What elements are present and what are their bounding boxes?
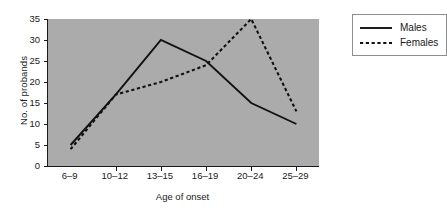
y-tick-mark [44, 61, 48, 62]
legend-item-males[interactable]: Males [359, 20, 438, 35]
y-tick-label: 0 [35, 161, 40, 171]
chart-legend: MalesFemales [352, 14, 447, 56]
x-axis-tick-labels: 6–910–1213–1516–1920–2425–29 [47, 168, 318, 186]
x-tick-label: 20–24 [237, 171, 263, 181]
y-tick-label: 20 [29, 77, 40, 87]
y-tick-mark [44, 145, 48, 146]
series-line-males [71, 40, 297, 145]
plot-area [47, 19, 319, 167]
series-line-females [71, 19, 297, 149]
y-tick-label: 25 [29, 56, 40, 66]
y-tick-mark [44, 103, 48, 104]
y-tick-mark [44, 40, 48, 41]
y-tick-mark [44, 82, 48, 83]
x-tick-label: 6–9 [62, 171, 78, 181]
legend-label: Males [400, 23, 427, 33]
y-tick-label: 5 [35, 140, 40, 150]
y-tick-label: 35 [29, 14, 40, 24]
legend-label: Females [400, 38, 438, 48]
x-tick-label: 10–12 [102, 171, 128, 181]
x-tick-label: 25–29 [282, 171, 308, 181]
y-tick-label: 10 [29, 119, 40, 129]
y-tick-mark [44, 166, 48, 167]
legend-swatch-solid [359, 23, 393, 33]
x-tick-label: 16–19 [192, 171, 218, 181]
series-lines [48, 19, 319, 166]
y-tick-mark [44, 19, 48, 20]
y-axis-tick-labels: 05101520253035 [0, 0, 47, 215]
legend-swatch-dotted [359, 38, 393, 48]
y-tick-mark [44, 124, 48, 125]
x-axis-title: Age of onset [47, 191, 318, 202]
legend-item-females[interactable]: Females [359, 35, 438, 50]
x-tick-label: 13–15 [147, 171, 173, 181]
y-tick-label: 15 [29, 98, 40, 108]
y-tick-label: 30 [29, 35, 40, 45]
